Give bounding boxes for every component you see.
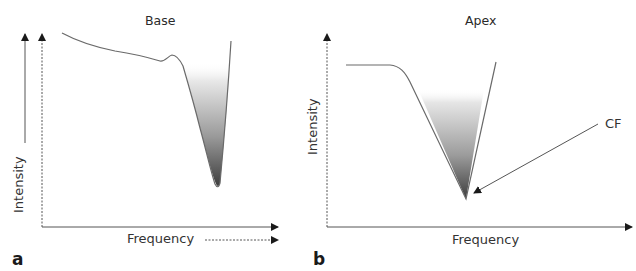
panel-a-ylabel: Intensity — [11, 156, 26, 213]
cf-pointer-arrow — [474, 124, 598, 193]
panel-b-title: Apex — [465, 13, 496, 28]
panel-a-xlabel: Frequency — [127, 231, 194, 246]
cf-label: CF — [605, 116, 622, 131]
tuning-fill-a — [183, 62, 230, 186]
panel-a — [25, 33, 278, 240]
panel-b — [327, 34, 632, 227]
tuning-fill-b — [418, 89, 484, 199]
panel-b-xlabel: Frequency — [452, 232, 519, 247]
panel-a-title: Base — [145, 13, 175, 28]
panel-a-tag: a — [12, 249, 23, 269]
panel-b-tag: b — [313, 249, 325, 269]
panel-b-ylabel: Intensity — [305, 98, 320, 155]
